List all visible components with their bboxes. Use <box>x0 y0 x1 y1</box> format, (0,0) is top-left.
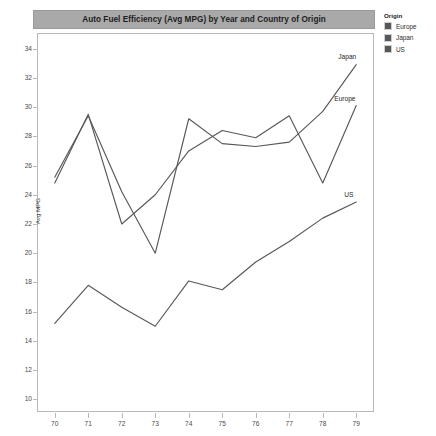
legend-item-us[interactable]: US <box>384 45 436 53</box>
y-axis-tick-label: 12 <box>6 366 32 373</box>
legend-item-label: US <box>396 46 405 53</box>
page-title: Auto Fuel Efficiency (Avg MPG) by Year a… <box>82 15 326 24</box>
series-end-label-japan: Japan <box>338 53 356 60</box>
y-axis-tick-mark <box>33 49 38 50</box>
legend-title: Origin <box>384 12 436 19</box>
y-axis-tick-mark <box>33 282 38 283</box>
y-axis-title: Avg MPG <box>34 181 41 241</box>
series-line-us <box>55 202 357 326</box>
x-axis-tick-mark <box>222 413 223 418</box>
series-canvas <box>38 34 373 411</box>
legend-item-japan[interactable]: Japan <box>384 34 436 42</box>
x-axis-tick-label: 77 <box>277 420 301 427</box>
y-axis-tick-label: 18 <box>6 278 32 285</box>
y-axis-tick-label: 24 <box>6 191 32 198</box>
legend-swatch-icon <box>384 22 392 30</box>
series-end-label-us: US <box>344 191 353 198</box>
plot-area: 1012141618202224262830323470717273747576… <box>37 33 374 412</box>
legend-swatch-icon <box>384 45 392 53</box>
x-axis-tick-mark <box>155 413 156 418</box>
x-axis-tick-label: 73 <box>143 420 167 427</box>
x-axis-tick-mark <box>88 413 89 418</box>
series-end-label-europe: Europe <box>334 95 355 102</box>
chart-page: Auto Fuel Efficiency (Avg MPG) by Year a… <box>0 0 436 436</box>
x-axis-tick-label: 71 <box>76 420 100 427</box>
y-axis-tick-label: 22 <box>6 220 32 227</box>
y-axis-tick-mark <box>33 136 38 137</box>
y-axis-tick-label: 34 <box>6 45 32 52</box>
x-axis-tick-label: 75 <box>210 420 234 427</box>
y-axis-tick-label: 10 <box>6 395 32 402</box>
legend-item-europe[interactable]: Europe <box>384 22 436 30</box>
x-axis-tick-label: 76 <box>244 420 268 427</box>
x-axis-tick-label: 78 <box>311 420 335 427</box>
y-axis-tick-label: 32 <box>6 74 32 81</box>
y-axis-tick-mark <box>33 341 38 342</box>
y-axis-tick-mark <box>33 399 38 400</box>
y-axis-tick-mark <box>33 253 38 254</box>
legend-items: EuropeJapanUS <box>384 22 436 53</box>
series-line-europe <box>55 106 357 224</box>
chart-title-bar: Auto Fuel Efficiency (Avg MPG) by Year a… <box>33 10 375 29</box>
y-axis-tick-label: 14 <box>6 337 32 344</box>
y-axis-tick-mark <box>33 312 38 313</box>
y-axis-tick-label: 28 <box>6 132 32 139</box>
legend: Origin EuropeJapanUS <box>384 12 436 57</box>
y-axis-tick-mark <box>33 370 38 371</box>
y-axis-tick-label: 20 <box>6 249 32 256</box>
x-axis-tick-label: 70 <box>43 420 67 427</box>
y-axis-tick-mark <box>33 107 38 108</box>
x-axis-tick-label: 79 <box>344 420 368 427</box>
x-axis-tick-label: 72 <box>110 420 134 427</box>
y-axis-tick-label: 30 <box>6 103 32 110</box>
legend-swatch-icon <box>384 34 392 42</box>
legend-item-label: Europe <box>396 23 417 30</box>
y-axis-tick-mark <box>33 78 38 79</box>
x-axis-tick-mark <box>189 413 190 418</box>
y-axis-tick-label: 26 <box>6 162 32 169</box>
x-axis-tick-mark <box>289 413 290 418</box>
y-axis-tick-mark <box>33 166 38 167</box>
x-axis-tick-mark <box>122 413 123 418</box>
x-axis-tick-label: 74 <box>177 420 201 427</box>
x-axis-tick-mark <box>55 413 56 418</box>
x-axis-tick-mark <box>256 413 257 418</box>
x-axis-tick-mark <box>323 413 324 418</box>
y-axis-tick-label: 16 <box>6 308 32 315</box>
x-axis-tick-mark <box>356 413 357 418</box>
legend-item-label: Japan <box>396 34 413 41</box>
